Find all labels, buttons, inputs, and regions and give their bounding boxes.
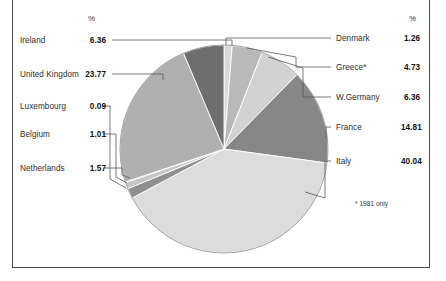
pie-slices bbox=[120, 45, 328, 253]
value-luxembourg: 0.09 bbox=[58, 102, 106, 111]
value-netherlands: 1.57 bbox=[58, 164, 106, 173]
label-greece: Greece* bbox=[336, 63, 366, 72]
value-greece: 4.73 bbox=[404, 63, 420, 72]
label-denmark: Denmark bbox=[336, 34, 370, 43]
label-ireland: Ireland bbox=[20, 36, 45, 45]
value-italy: 40.04 bbox=[401, 157, 422, 166]
label-w-germany: W.Germany bbox=[336, 93, 380, 102]
right-percent-header: % bbox=[409, 14, 416, 23]
value-france: 14.81 bbox=[401, 123, 422, 132]
value-belgium: 1.01 bbox=[58, 130, 106, 139]
value-united-kingdom: 23.77 bbox=[58, 70, 106, 79]
label-belgium: Belgium bbox=[20, 130, 50, 139]
label-france: France bbox=[336, 123, 362, 132]
value-w-germany: 6.36 bbox=[404, 93, 420, 102]
value-denmark: 1.26 bbox=[404, 34, 420, 43]
left-percent-header: % bbox=[88, 14, 95, 23]
footnote: * 1981 only bbox=[355, 200, 388, 207]
value-ireland: 6.36 bbox=[58, 36, 106, 45]
label-italy: Italy bbox=[336, 157, 351, 166]
